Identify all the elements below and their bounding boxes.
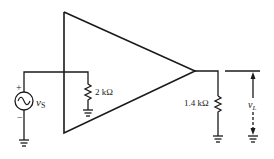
- input-resistor-ground-icon: [83, 104, 93, 116]
- source-minus-label: −: [17, 112, 23, 123]
- source-ground-icon: [19, 140, 29, 146]
- source-plus-label: +: [16, 82, 22, 93]
- voltage-source-icon: [15, 92, 33, 110]
- source-label: vS: [36, 96, 45, 110]
- load-resistor-ground-icon: [213, 136, 223, 142]
- output-wire: [195, 71, 218, 96]
- vl-ground-icon: [248, 136, 258, 142]
- load-resistor-label: 1.4 kΩ: [184, 98, 209, 108]
- load-resistor-icon: [215, 96, 221, 136]
- input-resistor-label: 2 kΩ: [95, 87, 113, 97]
- vl-label: vL: [248, 99, 256, 112]
- circuit-diagram: + − vS 2 kΩ 1.4 kΩ vL: [0, 0, 274, 159]
- input-wire: [24, 72, 88, 92]
- input-resistor-icon: [85, 82, 91, 104]
- source-label-subscript: S: [41, 101, 45, 110]
- vl-label-subscript: L: [251, 104, 256, 112]
